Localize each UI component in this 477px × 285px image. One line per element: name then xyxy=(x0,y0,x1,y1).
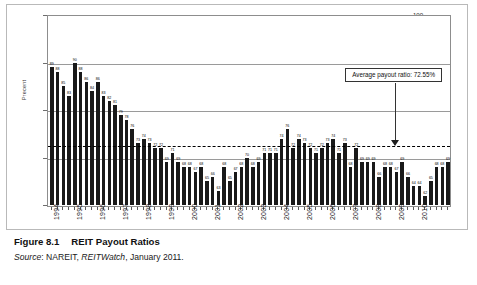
bar-rect xyxy=(50,67,54,205)
bar-rect xyxy=(303,143,307,205)
bar-value-label: 74 xyxy=(280,135,284,139)
plot-area: 8988858390888684868382817978767374737272… xyxy=(47,15,451,207)
bar-2005Q1: 73 xyxy=(303,15,307,205)
x-axis-label-1999: 1999 xyxy=(168,204,175,220)
bar-rect xyxy=(211,177,215,206)
bar-rect xyxy=(366,162,370,205)
bar-value-label: 71 xyxy=(170,149,174,153)
bar-1998Q1: 74 xyxy=(142,15,146,205)
bar-value-label: 69 xyxy=(176,158,180,162)
bar-2006Q3: 71 xyxy=(337,15,341,205)
x-axis-label-2000: 2000 xyxy=(191,204,198,220)
average-payout-line xyxy=(48,146,450,147)
bar-2010Q1: 64 xyxy=(418,15,422,205)
bar-value-label: 86 xyxy=(84,78,88,82)
bar-2005Q3: 71 xyxy=(314,15,318,205)
bar-2003Q3: 71 xyxy=(268,15,272,205)
bar-2002Q4: 68 xyxy=(251,15,255,205)
x-axis-label-2008: 2008 xyxy=(375,204,382,220)
bar-value-label: 69 xyxy=(360,158,364,162)
x-axis-label-2007: 2007 xyxy=(352,204,359,220)
bar-rect xyxy=(400,162,404,205)
bar-rect xyxy=(113,105,117,205)
bar-rect xyxy=(354,148,358,205)
bar-value-label: 82 xyxy=(107,97,111,101)
bar-value-label: 85 xyxy=(61,82,65,86)
bar-1998Q3: 72 xyxy=(153,15,157,205)
bar-value-label: 65 xyxy=(205,177,209,181)
source-date: , January 2011. xyxy=(125,252,184,262)
bar-value-label: 64 xyxy=(417,182,421,186)
annotation-arrow-shaft xyxy=(395,83,396,140)
bar-rect xyxy=(406,177,410,206)
bar-value-label: 76 xyxy=(285,125,289,129)
bar-rect xyxy=(228,181,232,205)
x-axis-label-1998: 1998 xyxy=(145,204,152,220)
bar-rect xyxy=(429,181,433,205)
bar-rect xyxy=(234,172,238,205)
figure-source: Source: NAREIT, REITWatch, January 2011. xyxy=(14,252,454,262)
bar-2008Q2: 66 xyxy=(377,15,381,205)
bar-rect xyxy=(125,120,129,206)
bar-rect xyxy=(337,153,341,205)
bar-2008Q3: 68 xyxy=(383,15,387,205)
bar-2009Q4: 64 xyxy=(412,15,416,205)
average-payout-annotation: Average payout ratio: 72.55% xyxy=(345,68,442,82)
bar-rect xyxy=(383,167,387,205)
bar-value-label: 71 xyxy=(337,149,341,153)
bar-rect xyxy=(257,162,261,205)
bar-2010Q3: 65 xyxy=(429,15,433,205)
bar-rect xyxy=(130,129,134,205)
bar-rect xyxy=(314,153,318,205)
bar-1995Q1: 90 xyxy=(73,15,77,205)
bar-2001Q4: 65 xyxy=(228,15,232,205)
bar-value-label: 73 xyxy=(326,139,330,143)
bar-2005Q4: 72 xyxy=(320,15,324,205)
bar-value-label: 66 xyxy=(406,173,410,177)
bar-value-label: 71 xyxy=(274,149,278,153)
bar-rect xyxy=(73,63,77,206)
bar-rect xyxy=(142,139,146,206)
bar-2005Q2: 72 xyxy=(309,15,313,205)
bar-value-label: 65 xyxy=(228,177,232,181)
bar-rect xyxy=(159,148,163,205)
bar-2009Q3: 66 xyxy=(406,15,410,205)
bar-2006Q2: 74 xyxy=(331,15,335,205)
annotation-arrow-head xyxy=(391,140,399,146)
bar-rect xyxy=(67,96,71,205)
source-publication: REITWatch xyxy=(81,252,125,262)
bar-2002Q3: 70 xyxy=(245,15,249,205)
bar-rect xyxy=(199,167,203,205)
x-axis-label-2001: 2001 xyxy=(214,204,221,220)
bar-2001Q1: 66 xyxy=(211,15,215,205)
bar-1995Q3: 86 xyxy=(85,15,89,205)
bar-value-label: 66 xyxy=(377,173,381,177)
bar-2010Q4: 68 xyxy=(435,15,439,205)
bar-value-label: 69 xyxy=(400,158,404,162)
bar-2001Q2: 63 xyxy=(217,15,221,205)
bar-1997Q2: 78 xyxy=(125,15,129,205)
bar-value-label: 74 xyxy=(297,135,301,139)
bar-1999Q3: 69 xyxy=(176,15,180,205)
bar-value-label: 81 xyxy=(113,101,117,105)
x-axis-label-2004: 2004 xyxy=(283,204,290,220)
bar-value-label: 68 xyxy=(199,163,203,167)
bar-2003Q1: 69 xyxy=(257,15,261,205)
bar-2003Q2: 71 xyxy=(263,15,267,205)
bar-1994Q2: 88 xyxy=(56,15,60,205)
bar-rect xyxy=(165,162,169,205)
bar-2004Q3: 72 xyxy=(291,15,295,205)
bar-rect xyxy=(309,148,313,205)
source-label: Source xyxy=(14,252,41,262)
x-axis-label-2002: 2002 xyxy=(237,204,244,220)
bar-value-label: 68 xyxy=(188,163,192,167)
bar-rect xyxy=(274,153,278,205)
bar-value-label: 73 xyxy=(303,139,307,143)
bar-value-label: 68 xyxy=(239,163,243,167)
bar-value-label: 69 xyxy=(366,158,370,162)
bar-value-label: 64 xyxy=(412,182,416,186)
bar-value-label: 83 xyxy=(102,92,106,96)
bar-undefined: 69 xyxy=(446,15,450,205)
x-axis-year-labels: 1994199519961997199819992000200120022003… xyxy=(48,210,450,232)
bar-value-label: 71 xyxy=(262,149,266,153)
